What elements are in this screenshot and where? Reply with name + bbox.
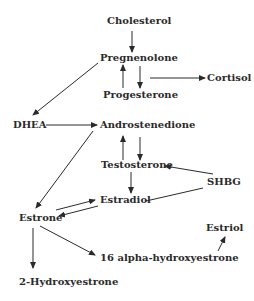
edge-androstenedione-estrone xyxy=(36,131,93,208)
edge-shbg-estradiol xyxy=(146,188,203,201)
node-estrone: Estrone xyxy=(19,212,62,224)
node-estradiol: Estradiol xyxy=(100,194,151,206)
edge-16alpha-estriol xyxy=(218,237,225,251)
node-androstenedione: Androstenedione xyxy=(100,119,195,131)
node-dhea: DHEA xyxy=(13,119,47,131)
node-progesterone: Progesterone xyxy=(103,89,178,101)
node-pregnenolone: Pregnenolone xyxy=(100,52,178,64)
steroid-pathway-diagram: Cholesterol Pregnenolone Progesterone Co… xyxy=(0,0,254,301)
edge-pregnenolone-dhea xyxy=(33,63,98,115)
edge-estrone-16alpha xyxy=(40,226,95,255)
node-cholesterol: Cholesterol xyxy=(107,15,171,27)
node-shbg: SHBG xyxy=(207,176,241,188)
node-cortisol: Cortisol xyxy=(207,72,251,84)
node-testosterone: Testosterone xyxy=(101,159,173,171)
node-2-hydroxyestrone: 2-Hydroxyestrone xyxy=(19,276,118,288)
node-estriol: Estriol xyxy=(206,222,243,234)
node-16-alpha-hydroxyestrone: 16 alpha-hydroxyestrone xyxy=(100,252,239,264)
